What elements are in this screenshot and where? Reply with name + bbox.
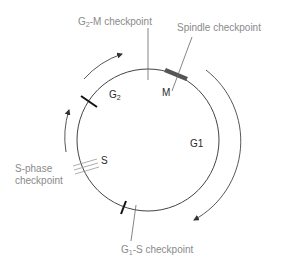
s-phase-checkpoint-marks	[73, 159, 99, 174]
phase-label-g1: G1	[190, 138, 204, 149]
mitosis-segment	[165, 70, 187, 79]
phase-label-g2: G2	[109, 89, 121, 101]
direction-arrow-top	[84, 54, 122, 79]
cell-cycle-diagram: G2-M checkpoint Spindle checkpoint S-pha…	[0, 0, 286, 272]
s-phase-checkpoint-label-line1: S-phase	[15, 163, 53, 174]
spindle-checkpoint-label: Spindle checkpoint	[177, 22, 261, 33]
s-phase-checkpoint-label-line2: checkpoint	[15, 175, 63, 186]
phase-label-m: M	[162, 87, 170, 98]
g1s-checkpoint-label: G1-S checkpoint	[121, 244, 193, 256]
direction-arrow-left	[65, 110, 69, 152]
phase-label-s: S	[101, 155, 108, 166]
g2-boundary-tick	[81, 96, 97, 107]
spindle-checkpoint-pointer	[172, 37, 192, 91]
g1s-checkpoint-pointer	[131, 205, 136, 241]
g2m-checkpoint-label: G2-M checkpoint	[78, 16, 152, 28]
